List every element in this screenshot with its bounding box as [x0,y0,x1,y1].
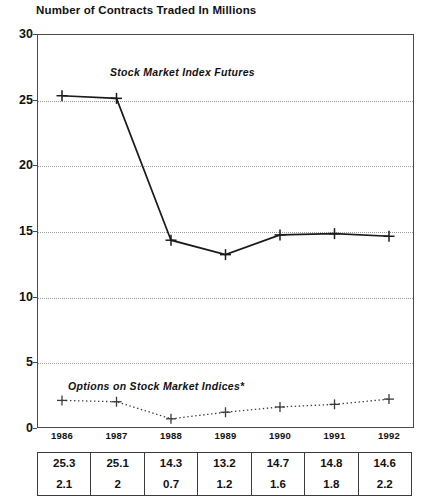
data-point-marker [166,414,176,424]
y-axis-tick-label: 15 [3,225,33,238]
data-point-marker [220,249,231,260]
table-cell: 14.6 [358,453,411,475]
data-point-marker [112,397,122,407]
data-table: 25.325.114.313.214.714.814.62.120.71.21.… [37,452,412,496]
series-label-futures: Stock Market Index Futures [110,66,255,78]
table-cell: 25.3 [38,453,91,475]
y-axis: 051015202530 [0,34,33,428]
data-point-marker [384,394,394,404]
x-axis-tick-label: 1986 [32,430,92,441]
y-axis-tick-label: 10 [3,290,33,303]
data-point-marker [329,228,340,239]
y-axis-tick-label: 5 [3,356,33,369]
data-point-marker [384,231,395,242]
table-cell: 14.3 [144,453,197,475]
data-point-marker [166,235,177,246]
series-line [62,96,389,255]
y-axis-tick-label: 25 [3,93,33,106]
y-axis-tick-label: 30 [3,28,33,41]
table-cell: 2.2 [358,474,411,496]
table-cell: 14.8 [305,453,358,475]
data-point-marker [57,395,67,405]
table-cell: 25.1 [91,453,144,475]
table-cell: 0.7 [144,474,197,496]
x-axis-tick-label: 1989 [196,430,256,441]
data-point-marker [111,93,122,104]
x-axis-tick-label: 1990 [250,430,310,441]
y-axis-tick [33,428,37,429]
data-point-marker [330,399,340,409]
table-cell: 14.7 [251,453,304,475]
table-cell: 1.6 [251,474,304,496]
data-point-marker [275,229,286,240]
table-cell: 1.8 [305,474,358,496]
x-axis: 1986198719881989199019911992 [37,430,414,446]
data-point-marker [275,402,285,412]
x-axis-tick-label: 1988 [141,430,201,441]
table-cell: 2.1 [38,474,91,496]
x-axis-tick-label: 1991 [305,430,365,441]
data-point-marker [221,407,231,417]
y-axis-tick-label: 0 [3,422,33,435]
data-point-marker [57,90,68,101]
y-axis-tick-label: 20 [3,159,33,172]
table-cell: 2 [91,474,144,496]
table-cell: 13.2 [198,453,251,475]
x-axis-tick-label: 1992 [359,430,419,441]
page-title: Number of Contracts Traded In Millions [36,4,256,16]
series-label-options: Options on Stock Market Indices* [68,380,244,392]
table-row: 2.120.71.21.61.82.2 [38,474,412,496]
table-row: 25.325.114.313.214.714.814.6 [38,453,412,475]
chart-page: Number of Contracts Traded In Millions 0… [0,0,425,503]
x-axis-tick-label: 1987 [87,430,147,441]
table-cell: 1.2 [198,474,251,496]
series-overlay [37,34,414,428]
